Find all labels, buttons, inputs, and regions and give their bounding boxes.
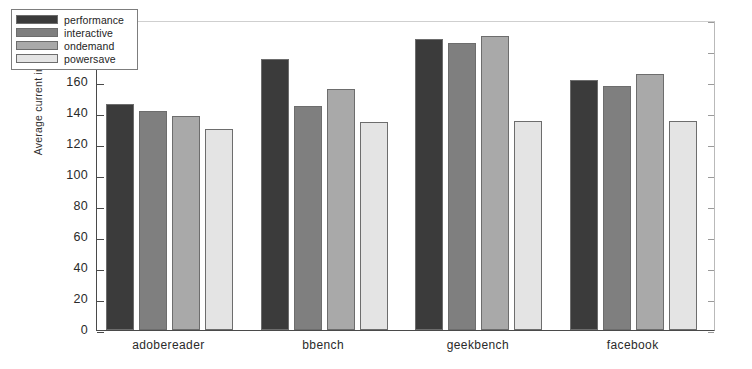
y-axis-tick-right: [708, 208, 714, 209]
bar-interactive-adobereader: [139, 111, 167, 330]
y-axis-tick: [97, 146, 104, 147]
legend-swatch-interactive: [16, 28, 58, 37]
y-axis-tick-right: [708, 22, 714, 23]
legend-label-powersave: powersave: [64, 53, 116, 65]
y-axis-tick-right: [708, 177, 714, 178]
bar-group: [261, 22, 388, 330]
y-axis-tick-right: [708, 239, 714, 240]
bar-group: [570, 22, 697, 330]
y-axis-tick: [97, 208, 104, 209]
y-axis-tick-label: 20: [28, 292, 88, 306]
x-axis-label-bbench: bbench: [243, 338, 403, 352]
bar-interactive-bbench: [294, 106, 322, 330]
bar-performance-adobereader: [106, 104, 134, 330]
bar-interactive-geekbench: [448, 43, 476, 330]
y-axis-tick-right: [708, 146, 714, 147]
y-axis-tick-label: 120: [28, 137, 88, 151]
plot-area: [96, 21, 715, 331]
y-axis-tick-label: 80: [28, 199, 88, 213]
legend-swatch-ondemand: [16, 41, 58, 50]
y-axis-tick: [97, 239, 104, 240]
legend-item-ondemand: ondemand: [16, 40, 133, 53]
legend-item-interactive: interactive: [16, 27, 133, 40]
y-axis-tick: [97, 177, 104, 178]
y-axis-tick-right: [708, 53, 714, 54]
legend-item-performance: performance: [16, 14, 133, 27]
legend-label-performance: performance: [64, 14, 124, 26]
y-axis-tick: [97, 332, 104, 333]
y-axis-tick-label: 60: [28, 230, 88, 244]
x-axis-label-facebook: facebook: [553, 338, 713, 352]
bar-ondemand-adobereader: [172, 116, 200, 330]
bar-powersave-adobereader: [205, 129, 233, 331]
bar-powersave-facebook: [669, 121, 697, 330]
y-axis-tick-label: 100: [28, 168, 88, 182]
bar-interactive-facebook: [603, 86, 631, 330]
legend-swatch-powersave: [16, 54, 58, 63]
legend-swatch-performance: [16, 15, 58, 24]
y-axis-tick: [97, 84, 104, 85]
x-axis-label-adobereader: adobereader: [88, 338, 248, 352]
bar-group: [415, 22, 542, 330]
bar-performance-bbench: [261, 59, 289, 330]
bar-performance-facebook: [570, 80, 598, 330]
y-axis-tick-right: [708, 84, 714, 85]
y-axis-tick: [97, 301, 104, 302]
y-axis-tick-right: [708, 332, 714, 333]
bar-powersave-geekbench: [514, 121, 542, 330]
bar-chart-figure: Average current in mA 020406080100120140…: [0, 0, 752, 369]
y-axis-tick: [97, 270, 104, 271]
legend: performanceinteractiveondemandpowersave: [11, 9, 138, 70]
bar-ondemand-bbench: [327, 89, 355, 330]
y-axis-tick-right: [708, 270, 714, 271]
y-axis-tick-label: 0: [28, 323, 88, 337]
legend-label-ondemand: ondemand: [64, 40, 114, 52]
x-axis-label-geekbench: geekbench: [398, 338, 558, 352]
y-axis-tick-label: 160: [28, 75, 88, 89]
y-axis-tick-right: [708, 115, 714, 116]
y-axis-tick-label: 140: [28, 106, 88, 120]
y-axis-tick: [97, 115, 104, 116]
bar-performance-geekbench: [415, 39, 443, 330]
bar-ondemand-facebook: [636, 74, 664, 330]
legend-label-interactive: interactive: [64, 27, 113, 39]
bar-powersave-bbench: [360, 122, 388, 330]
y-axis-tick-right: [708, 301, 714, 302]
legend-item-powersave: powersave: [16, 53, 133, 66]
y-axis-tick-label: 40: [28, 261, 88, 275]
bar-ondemand-geekbench: [481, 36, 509, 331]
